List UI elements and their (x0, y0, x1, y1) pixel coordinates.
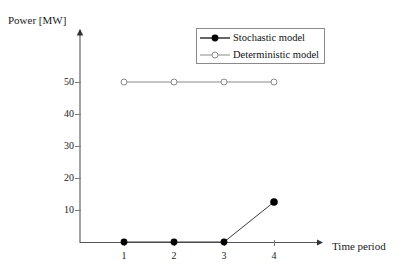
legend-label-deterministic: Deterministic model (233, 49, 319, 60)
data-point-deterministic-3 (221, 79, 227, 85)
data-point-deterministic-4 (271, 79, 277, 85)
series-deterministic (121, 79, 277, 85)
power-time-chart: Power [MW] Time period 50 40 30 20 10 1 … (0, 0, 401, 270)
legend-marker-stochastic (197, 29, 233, 46)
data-point-deterministic-1 (121, 79, 127, 85)
legend-item-stochastic: Stochastic model (197, 29, 324, 46)
data-point-stochastic-3 (221, 239, 228, 246)
series-stochastic (121, 198, 278, 245)
data-point-stochastic-1 (121, 239, 128, 246)
data-point-stochastic-4 (270, 198, 278, 206)
legend-marker-deterministic (197, 46, 233, 63)
data-point-deterministic-2 (171, 79, 177, 85)
legend-label-stochastic: Stochastic model (233, 32, 305, 43)
chart-legend: Stochastic model Deterministic model (196, 28, 325, 64)
data-point-stochastic-2 (171, 239, 178, 246)
legend-item-deterministic: Deterministic model (197, 46, 324, 63)
